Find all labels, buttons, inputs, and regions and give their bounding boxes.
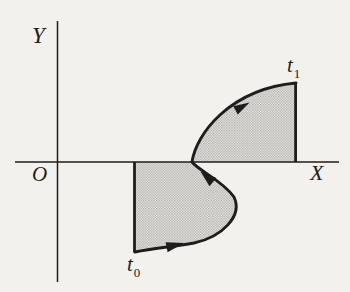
t0-label: t0 xyxy=(127,254,139,275)
parametric-curve-figure: Y O X t1 t0 xyxy=(0,0,350,292)
origin-label: O xyxy=(32,164,47,185)
direction-arrow-bottom xyxy=(166,242,184,252)
t0-label-base: t xyxy=(127,252,133,276)
t0-label-subscript: 0 xyxy=(134,265,141,280)
diagram-canvas xyxy=(0,0,350,292)
t1-label: t1 xyxy=(287,55,299,76)
shaded-region-lower xyxy=(134,162,236,252)
shaded-region-upper xyxy=(192,83,296,162)
t1-label-subscript: 1 xyxy=(294,66,301,81)
x-axis-label: X xyxy=(310,162,323,184)
y-axis-label: Y xyxy=(32,24,45,47)
t1-label-base: t xyxy=(287,53,293,77)
